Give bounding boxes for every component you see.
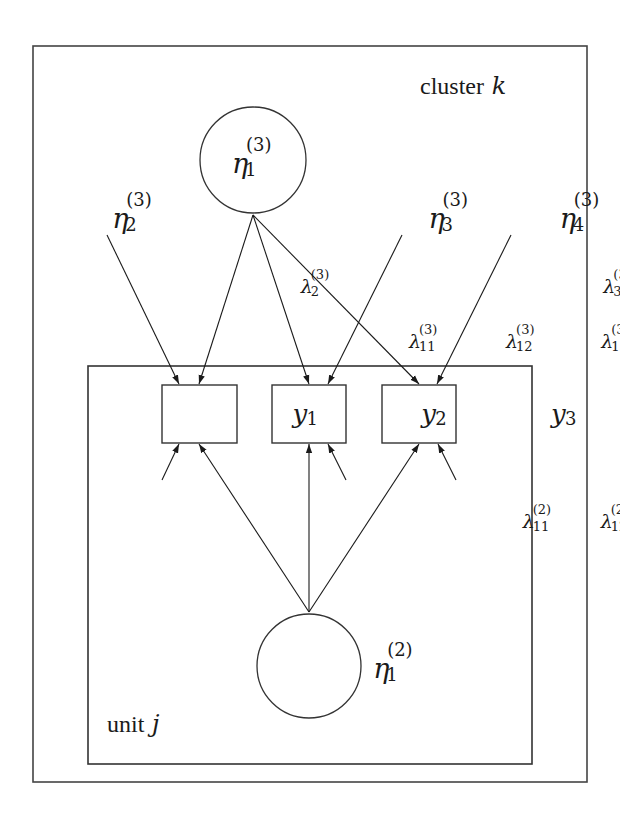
arrow-eta4-to-y3 <box>437 235 511 384</box>
unit-label: unit j <box>107 712 159 736</box>
latent-eta4-3-label: η4(3) <box>560 205 576 232</box>
arrow-eta1-3-to-y3 <box>253 215 419 384</box>
observed-y2-label: y2 <box>421 401 436 427</box>
latent-eta1-3-label: η1(3) <box>232 150 248 177</box>
latent-eta1-2-circle <box>257 614 361 718</box>
loading-lambda13-3: λ13(3) <box>601 332 613 351</box>
observed-y3-label: y3 <box>551 401 566 427</box>
loading-lambda12-2: λ12(2) <box>601 512 613 531</box>
arrow-eta2-to-y1 <box>107 235 179 384</box>
loading-lambda3-3: λ3(3) <box>603 277 615 296</box>
arrow-eta3-to-y2 <box>328 235 402 384</box>
arrow-eta1-2-to-y3 <box>309 444 419 612</box>
loading-lambda11-3: λ11(3) <box>409 332 421 351</box>
observed-y1-box <box>162 385 237 443</box>
latent-eta2-3-label: η2(3) <box>112 205 128 232</box>
arrow-eta1-3-to-y1 <box>199 215 253 384</box>
cluster-label: cluster k <box>420 74 506 98</box>
arrow-eta1-2-to-y1 <box>199 444 309 612</box>
loading-lambda11-2: λ11(2) <box>523 512 535 531</box>
error-arrow-y3 <box>438 444 456 480</box>
latent-eta3-3-label: η3(3) <box>429 205 445 232</box>
error-arrow-y2 <box>328 444 346 480</box>
latent-eta1-2-label: η1(2) <box>373 655 389 682</box>
error-arrow-y1 <box>162 444 179 480</box>
loading-lambda12-3: λ12(3) <box>506 332 518 351</box>
loading-lambda2-3: λ2(3) <box>301 277 313 296</box>
observed-y1-label: y1 <box>292 401 307 427</box>
arrow-eta1-3-to-y2 <box>253 215 309 384</box>
